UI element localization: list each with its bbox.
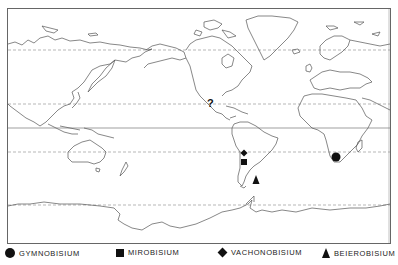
legend-item-vachonobisium: VACHONOBISIUM: [218, 248, 302, 257]
legend-item-gymnobisium: GYMNOBISIUM: [5, 248, 80, 258]
kamchatka: [88, 60, 115, 92]
canadian-arctic-islands: [194, 20, 236, 38]
world-map: ?: [0, 0, 398, 250]
tierra-del-fuego: [240, 186, 246, 188]
british-isles: [306, 64, 312, 72]
hudson-bay: [222, 54, 234, 68]
legend-label: BEIEROBISIUM: [334, 249, 395, 258]
south-america: [232, 122, 278, 186]
diamond-icon: [218, 248, 228, 258]
greenland: [246, 16, 298, 60]
vachonobisium-marker: [240, 149, 247, 156]
mirobisium-marker: [241, 159, 247, 165]
triangle-icon: [322, 248, 330, 258]
new-zealand: [120, 162, 128, 176]
antarctica: [8, 200, 390, 230]
alaska: [144, 44, 186, 68]
arctic-islands-europe: [326, 22, 380, 36]
novaya-zemlya: [42, 26, 58, 33]
circle-icon: [5, 248, 15, 258]
asia-north-coast: [8, 36, 152, 50]
southeast-asia-islands: [48, 124, 114, 138]
square-icon: [116, 249, 124, 257]
map-legend: GYMNOBISIUM MIROBISIUM VACHONOBISIUM BEI…: [0, 246, 398, 265]
antarctic-peninsula: [246, 196, 254, 204]
legend-item-beierobisium: BEIEROBISIUM: [322, 248, 395, 258]
arctic-islands-asia: [88, 33, 98, 36]
tasmania: [96, 168, 100, 172]
europe: [310, 70, 372, 90]
asia-north-right: [350, 40, 390, 46]
asia-east-coast: [8, 49, 152, 126]
legend-label: MIROBISIUM: [128, 248, 179, 257]
uncertain-record-question-mark: ?: [207, 97, 214, 109]
madagascar: [356, 140, 362, 152]
beierobisium-marker: [253, 175, 260, 184]
legend-item-mirobisium: MIROBISIUM: [116, 248, 179, 257]
central-america-caribbean: [226, 106, 248, 118]
north-america: [186, 36, 252, 120]
legend-label: GYMNOBISIUM: [19, 249, 80, 258]
legend-label: VACHONOBISIUM: [231, 248, 302, 257]
scandinavia: [320, 36, 350, 60]
map-frame: [8, 9, 391, 244]
gymnobisium-marker: [332, 153, 341, 162]
japan: [72, 92, 80, 108]
